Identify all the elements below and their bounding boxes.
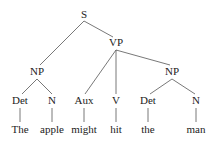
node-n-object: N (192, 94, 200, 106)
node-np-subject: NP (30, 65, 44, 77)
edge-vp-aux (85, 50, 116, 94)
edge-np2-n (172, 79, 195, 94)
tree-labels: S VP NP NP Det N Aux V Det N The apple m… (11, 8, 206, 135)
node-s: S (81, 8, 87, 20)
word-might: might (71, 123, 97, 135)
edge-np-det (22, 79, 37, 94)
edge-np-n (37, 79, 52, 94)
word-the-2: the (141, 123, 155, 135)
edge-s-vp (84, 21, 113, 37)
parse-tree: S VP NP NP Det N Aux V Det N The apple m… (0, 0, 216, 142)
word-the: The (11, 123, 28, 135)
node-v: V (112, 94, 120, 106)
edge-np2-det (150, 79, 172, 94)
node-aux: Aux (75, 94, 94, 106)
node-vp: VP (109, 36, 123, 48)
word-man: man (187, 123, 206, 135)
node-np-object: NP (165, 65, 179, 77)
node-n-subject: N (48, 94, 56, 106)
node-det-object: Det (140, 94, 156, 106)
edge-s-np (40, 21, 84, 65)
node-det-subject: Det (12, 94, 28, 106)
word-apple: apple (40, 123, 64, 135)
word-hit: hit (110, 123, 122, 135)
edge-vp-np (116, 50, 170, 65)
